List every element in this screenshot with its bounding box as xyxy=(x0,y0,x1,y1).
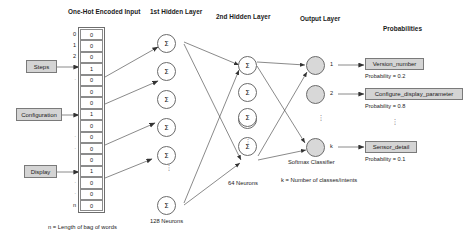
output-node-label: k xyxy=(330,144,333,150)
hidden2-neuron: Σ xyxy=(238,83,257,102)
predictions-ellipsis: ⋮ xyxy=(388,120,402,123)
caption-k-note: k = Number of classes/intents xyxy=(281,178,357,184)
one-hot-index-label: 2 xyxy=(63,54,76,60)
hidden2-neuron: Σ xyxy=(238,56,257,75)
output-node-label: 2 xyxy=(330,91,333,97)
caption-hidden1-note: 128 Neurons xyxy=(150,219,183,225)
output-node xyxy=(306,85,325,104)
diagram-canvas: One-Hot Encoded Input 1st Hidden Layer 2… xyxy=(0,0,469,242)
header-input: One-Hot Encoded Input xyxy=(68,9,140,15)
one-hot-index-ellipsis: · xyxy=(63,191,76,197)
prediction-probability-1: Probability = 0.2 xyxy=(365,74,405,80)
prediction-tag-k[interactable]: Sensor_detail xyxy=(365,141,417,153)
word-tag-display[interactable]: Display xyxy=(24,165,57,178)
one-hot-cell: 0 xyxy=(80,132,103,143)
one-hot-cell: 0 xyxy=(80,52,103,63)
one-hot-cell: 1 xyxy=(80,109,103,120)
word-tag-configuration[interactable]: Configuration xyxy=(16,108,62,121)
one-hot-index-label: 1 xyxy=(63,43,76,49)
one-hot-index-label: 0 xyxy=(63,32,76,38)
one-hot-cell: 0 xyxy=(80,154,103,165)
caption-softmax-note: Softmax Classifier xyxy=(288,160,335,166)
one-hot-cell: 0 xyxy=(80,75,103,86)
word-tag-steps[interactable]: Steps xyxy=(26,60,57,73)
prediction-probability-2: Probability = 0.8 xyxy=(365,104,405,110)
hidden-layer-2-ellipsis: ⋮ xyxy=(241,140,255,143)
header-hidden-layer-1: 1st Hidden Layer xyxy=(150,9,202,15)
output-node xyxy=(306,56,325,75)
output-node-label: 1 xyxy=(330,62,333,68)
hidden1-neuron: Σ xyxy=(157,34,176,53)
one-hot-cell: 0 xyxy=(80,86,103,97)
one-hot-index-ellipsis: · xyxy=(63,77,76,83)
hidden-layer-1-ellipsis: ⋮ xyxy=(162,166,176,169)
one-hot-index-label: n xyxy=(63,203,76,209)
one-hot-cell: 0 xyxy=(80,200,103,211)
one-hot-cell: 1 xyxy=(80,166,103,177)
hidden1-neuron: Σ xyxy=(157,62,176,81)
one-hot-cell: 0 xyxy=(80,40,103,51)
one-hot-index-ellipsis: · xyxy=(63,134,76,140)
one-hot-cell: 0 xyxy=(80,29,103,40)
output-node xyxy=(306,138,325,157)
one-hot-cell: 0 xyxy=(80,189,103,200)
one-hot-cell: 0 xyxy=(80,97,103,108)
hidden2-neuron: Σ xyxy=(238,108,257,127)
one-hot-index-ellipsis: · xyxy=(63,180,76,186)
one-hot-cell: 1 xyxy=(80,63,103,74)
header-probabilities: Probabilities xyxy=(383,26,422,32)
caption-input-note: n = Length of bag of words xyxy=(48,225,117,231)
hidden1-neuron: Σ xyxy=(157,196,176,215)
output-layer-ellipsis: ⋮ xyxy=(314,116,328,119)
one-hot-cell: 0 xyxy=(80,120,103,131)
one-hot-cell: 0 xyxy=(80,143,103,154)
caption-hidden2-note: 64 Neurons xyxy=(228,181,258,187)
header-hidden-layer-2: 2nd Hidden Layer xyxy=(216,14,270,20)
prediction-probability-k: Probability = 0.1 xyxy=(365,157,405,163)
prediction-tag-1[interactable]: Version_number xyxy=(365,58,424,70)
one-hot-cell: 0 xyxy=(80,177,103,188)
header-output-layer: Output Layer xyxy=(300,16,340,22)
prediction-tag-2[interactable]: Configure_display_parameter xyxy=(365,88,463,100)
hidden1-neuron: Σ xyxy=(157,90,176,109)
hidden1-neuron: Σ xyxy=(157,118,176,137)
one-hot-index-ellipsis: · xyxy=(63,146,76,152)
hidden1-neuron: Σ xyxy=(157,146,176,165)
